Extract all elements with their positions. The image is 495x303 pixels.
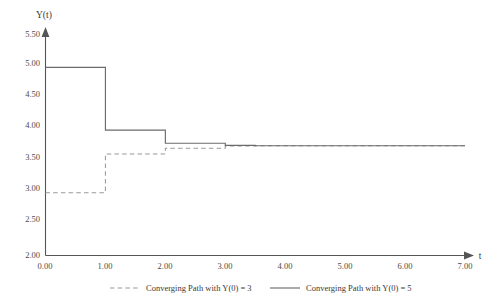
y-tick-label: 4.50 (25, 89, 40, 99)
y-tick-label: 3.50 (25, 152, 40, 162)
y-tick-label: 5.50 (25, 29, 40, 39)
y-tick-label: 3.00 (25, 183, 40, 193)
legend-label-y0-5: Converging Path with Y(0) = 5 (306, 283, 412, 293)
y-axis-title: Y(t) (36, 10, 52, 21)
x-tick-label: 7.00 (458, 261, 473, 271)
y-axis-arrowhead (42, 27, 50, 37)
y-tick-label: 2.00 (25, 250, 40, 260)
x-axis-arrowhead (464, 252, 474, 260)
y-tick-label: 5.00 (25, 58, 40, 68)
y-axis-tick-labels: 5.50 5.00 4.50 4.00 3.50 3.00 2.50 2.00 (25, 29, 40, 260)
x-axis-title: t (479, 251, 482, 261)
x-axis (46, 252, 475, 260)
x-tick-label: 2.00 (158, 261, 173, 271)
y-tick-label: 4.00 (25, 120, 40, 130)
series-converging-path-y0-5 (46, 67, 466, 145)
y-axis (42, 27, 50, 256)
x-tick-label: 0.00 (38, 261, 53, 271)
x-tick-label: 1.00 (98, 261, 113, 271)
x-tick-label: 4.00 (278, 261, 293, 271)
series-converging-path-y0-3 (46, 146, 466, 193)
x-tick-label: 3.00 (218, 261, 233, 271)
x-axis-tick-labels: 0.00 1.00 2.00 3.00 4.00 5.00 6.00 7.00 (38, 261, 473, 271)
chart-container: 5.50 5.00 4.50 4.00 3.50 3.00 2.50 2.00 … (0, 0, 495, 303)
legend: Converging Path with Y(0) = 3 Converging… (110, 283, 412, 293)
line-chart: 5.50 5.00 4.50 4.00 3.50 3.00 2.50 2.00 … (0, 0, 495, 303)
x-tick-label: 5.00 (338, 261, 353, 271)
legend-label-y0-3: Converging Path with Y(0) = 3 (146, 283, 252, 293)
x-tick-label: 6.00 (398, 261, 413, 271)
y-tick-label: 2.50 (25, 214, 40, 224)
